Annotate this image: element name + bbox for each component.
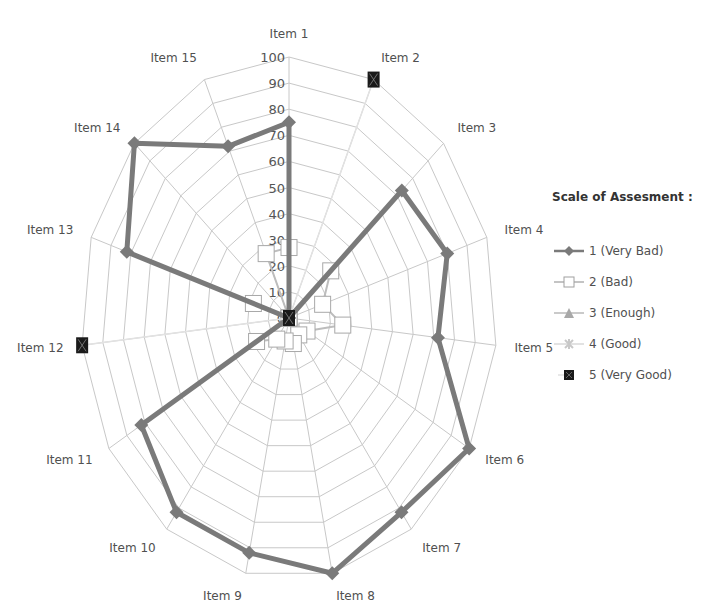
svg-text:Item 6: Item 6: [485, 453, 524, 467]
data-series: [76, 72, 476, 581]
triangle-marker-icon: [552, 306, 586, 320]
legend-title: Scale of Assesment :: [552, 190, 702, 204]
svg-text:Item 10: Item 10: [109, 541, 155, 555]
svg-text:Item 5: Item 5: [514, 341, 553, 355]
legend-item-good: 4 (Good): [552, 331, 702, 356]
radial-tick-labels: 0102030405060708090100: [260, 50, 285, 326]
legend-label: 2 (Bad): [589, 275, 633, 289]
legend-item-very-bad: 1 (Very Bad): [552, 238, 702, 263]
svg-text:Item 9: Item 9: [203, 589, 242, 603]
legend-label: 4 (Good): [589, 337, 641, 351]
star-marker-icon: [552, 337, 586, 351]
svg-text:Item 11: Item 11: [46, 453, 92, 467]
open-square-marker-icon: [552, 275, 586, 289]
svg-text:100: 100: [260, 50, 285, 65]
legend-label: 3 (Enough): [589, 306, 655, 320]
svg-text:Item 12: Item 12: [17, 341, 63, 355]
svg-text:40: 40: [268, 207, 285, 222]
svg-text:Item 14: Item 14: [74, 121, 120, 135]
legend-label: 1 (Very Bad): [589, 244, 664, 258]
svg-text:60: 60: [268, 154, 285, 169]
svg-text:Item 8: Item 8: [336, 589, 375, 603]
legend-item-very-good: 5 (Very Good): [552, 362, 702, 387]
legend: Scale of Assesment : 1 (Very Bad) 2 (Bad…: [552, 190, 702, 393]
diamond-marker-icon: [552, 244, 586, 258]
legend-label: 5 (Very Good): [589, 368, 672, 382]
svg-text:Item 7: Item 7: [422, 541, 461, 555]
svg-text:50: 50: [268, 181, 285, 196]
svg-text:90: 90: [268, 76, 285, 91]
legend-item-bad: 2 (Bad): [552, 269, 702, 294]
filled-square-marker-icon: [552, 368, 586, 382]
svg-text:Item 4: Item 4: [505, 223, 544, 237]
svg-text:Item 13: Item 13: [27, 223, 73, 237]
svg-text:Item 3: Item 3: [457, 121, 496, 135]
legend-item-enough: 3 (Enough): [552, 300, 702, 325]
svg-text:80: 80: [268, 102, 285, 117]
svg-text:Item 15: Item 15: [150, 51, 196, 65]
svg-text:Item 1: Item 1: [270, 27, 309, 41]
svg-text:Item 2: Item 2: [381, 51, 420, 65]
